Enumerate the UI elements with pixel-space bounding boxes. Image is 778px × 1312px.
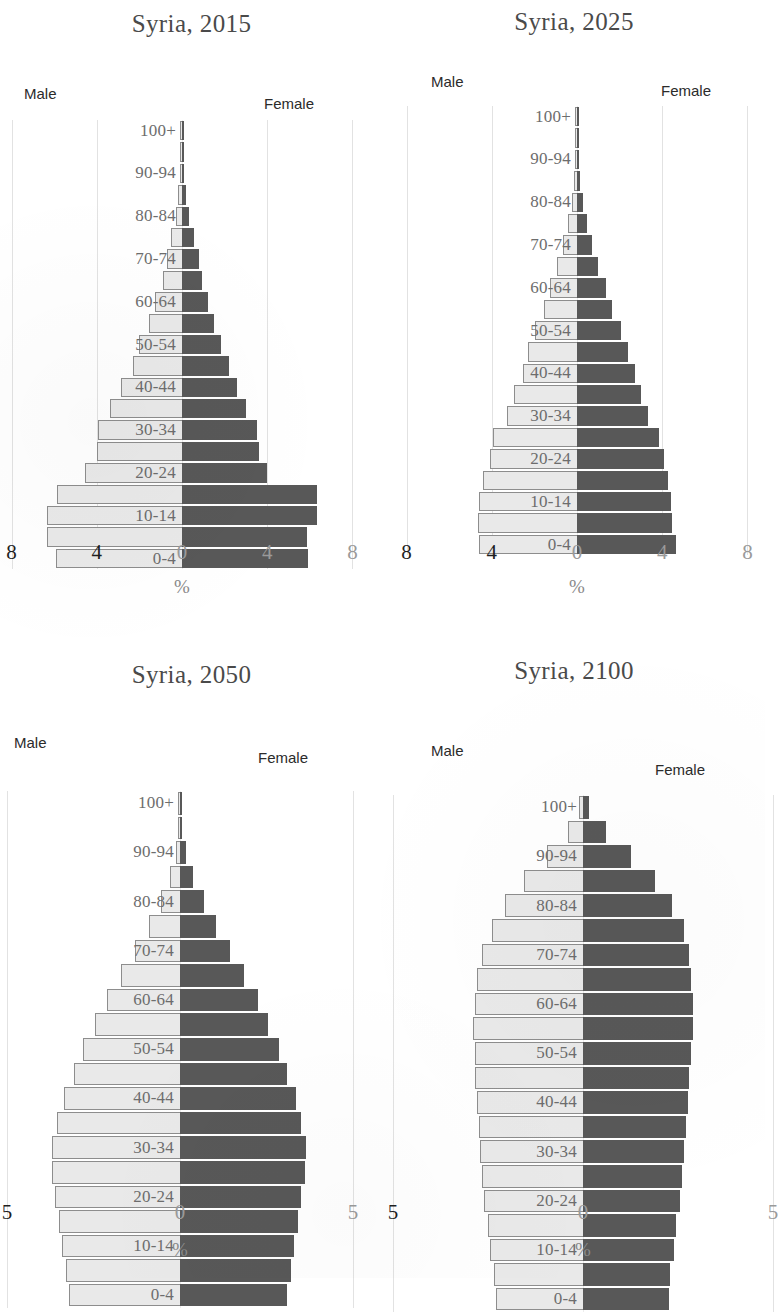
age-band-row <box>383 341 765 362</box>
age-band-row <box>383 1262 765 1287</box>
age-band-row: 60-64 <box>383 277 765 298</box>
age-group-label: 0-4 <box>102 1285 174 1305</box>
age-band-row: 60-64 <box>0 291 383 312</box>
age-band-row: 90-94 <box>0 840 383 865</box>
bar-male <box>121 964 180 987</box>
bar-male <box>171 228 182 247</box>
bar-male <box>514 385 577 404</box>
age-band-row: 100+ <box>383 795 765 820</box>
age-group-label: 30-34 <box>102 1138 174 1158</box>
age-band-row: 80-84 <box>0 206 383 227</box>
x-axis-label: % <box>172 1239 188 1261</box>
age-group-label: 40-44 <box>505 1092 577 1112</box>
bar-female <box>180 841 186 864</box>
bar-female <box>182 399 246 418</box>
age-band-row <box>0 1160 383 1185</box>
x-axis-tick: 0 <box>572 540 583 565</box>
bar-female <box>583 1116 686 1139</box>
bar-female <box>180 1063 287 1086</box>
age-group-label: 20-24 <box>102 1187 174 1207</box>
age-band-row <box>0 1012 383 1037</box>
bar-female <box>577 406 648 425</box>
age-band-row: 20-24 <box>383 1189 765 1214</box>
chart-title-2100: Syria, 2100 <box>383 639 765 685</box>
x-axis-label: % <box>575 1239 591 1261</box>
age-band-row <box>383 299 765 320</box>
age-band-row: 50-54 <box>383 320 765 341</box>
age-band-row: 20-24 <box>0 462 383 483</box>
bar-female <box>577 150 579 169</box>
age-group-label: 20-24 <box>499 449 571 469</box>
age-band-row <box>383 967 765 992</box>
bar-female <box>180 890 204 913</box>
age-group-label: 70-74 <box>104 249 176 269</box>
bar-male <box>528 342 577 361</box>
bar-rows: 100+90-9480-8470-7460-6450-5440-4430-342… <box>0 791 383 1307</box>
legend-female-2015: Female <box>264 95 314 112</box>
legend-male-2025: Male <box>431 73 464 90</box>
age-band-row: 70-74 <box>383 234 765 255</box>
bar-male <box>95 1013 180 1036</box>
bar-female <box>577 257 598 276</box>
bar-rows: 100+90-9480-8470-7460-6450-5440-4430-342… <box>383 106 765 555</box>
bar-female <box>583 1091 688 1114</box>
age-band-row <box>383 384 765 405</box>
age-group-label: 20-24 <box>104 463 176 483</box>
age-band-row: 10-14 <box>0 505 383 526</box>
x-axis-tick: 5 <box>2 1200 13 1225</box>
bar-female <box>577 513 672 532</box>
bar-male <box>479 1116 584 1139</box>
age-band-row <box>383 1164 765 1189</box>
bar-female <box>583 870 655 893</box>
bar-male <box>47 527 182 546</box>
age-band-row <box>383 1115 765 1140</box>
bar-male <box>149 915 180 938</box>
bar-male <box>482 1165 583 1188</box>
bar-female <box>182 314 214 333</box>
bar-female <box>182 463 267 482</box>
bar-male <box>59 1210 180 1233</box>
bar-female <box>180 1161 305 1184</box>
age-group-label: 80-84 <box>505 896 577 916</box>
bar-female <box>180 1186 301 1209</box>
age-group-label: 70-74 <box>102 941 174 961</box>
chart-title-2015: Syria, 2015 <box>0 0 383 38</box>
age-group-label: 50-54 <box>102 1039 174 1059</box>
x-axis-tick: 8 <box>6 540 17 565</box>
bar-female <box>577 492 671 511</box>
plot-area-2100: 100+90-9480-8470-7460-6450-5440-4430-342… <box>383 795 765 1312</box>
age-band-row: 100+ <box>0 791 383 816</box>
age-band-row <box>0 313 383 334</box>
bar-female <box>182 527 307 546</box>
bar-female <box>577 193 583 212</box>
bar-male <box>568 214 577 233</box>
age-band-row: 40-44 <box>0 377 383 398</box>
age-band-row: 100+ <box>383 106 765 127</box>
bar-male <box>557 257 577 276</box>
age-band-row <box>0 914 383 939</box>
bar-male <box>97 442 182 461</box>
bar-female <box>577 214 587 233</box>
bar-rows: 100+90-9480-8470-7460-6450-5440-4430-342… <box>0 120 383 569</box>
legend-female-2050: Female <box>258 749 308 766</box>
age-band-row: 100+ <box>0 120 383 141</box>
age-band-row <box>383 470 765 491</box>
panel-syria-2015: Syria, 2015 Male Female 100+90-9480-8470… <box>0 0 383 639</box>
age-group-label: 80-84 <box>104 206 176 226</box>
age-band-row: 70-74 <box>0 939 383 964</box>
bar-male <box>492 919 583 942</box>
age-group-label: 100+ <box>505 797 577 817</box>
age-group-label: 50-54 <box>104 335 176 355</box>
bar-female <box>182 506 317 525</box>
x-axis-tick: 8 <box>742 540 753 565</box>
age-group-label: 10-14 <box>499 492 571 512</box>
bar-female <box>180 1038 279 1061</box>
age-band-row <box>383 918 765 943</box>
bar-female <box>182 442 259 461</box>
age-group-label: 10-14 <box>505 1240 577 1260</box>
age-band-row: 70-74 <box>383 943 765 968</box>
age-band-row <box>0 1111 383 1136</box>
legend-female-2100: Female <box>655 761 705 778</box>
age-band-row: 10-14 <box>0 1234 383 1259</box>
bar-female <box>577 300 612 319</box>
